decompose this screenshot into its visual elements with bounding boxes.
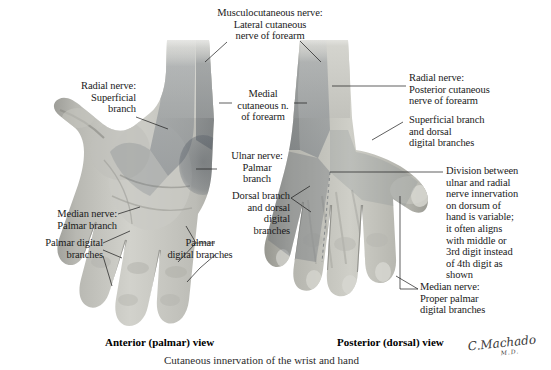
caption-anterior-palmar-view: Anterior (palmar) view	[105, 336, 214, 348]
label-palmar-digital-branches-left: Palmar digital branches	[3, 237, 103, 260]
label-superficial-branch-and-dorsal-digital-branches: Superficial branch and dorsal digital br…	[409, 114, 549, 149]
label-radial-nerve-posterior-cutaneous: Radial nerve: Posterior cutaneous nerve …	[409, 72, 547, 107]
anatomy-figure: Musculocutaneous nerve: Lateral cutaneou…	[0, 0, 551, 370]
zone-medial-cutaneous	[196, 30, 214, 150]
label-median-nerve-palmar-branch: Median nerve: Palmar branch	[12, 208, 117, 231]
label-palmar-digital-branches-center: Palmar digital branches	[154, 237, 246, 260]
caption-posterior-dorsal-view: Posterior (dorsal) view	[337, 336, 444, 348]
label-radial-nerve-superficial-branch: Radial nerve: Superficial branch	[36, 80, 136, 115]
label-dorsal-branch-and-dorsal-digital-branches: Dorsal branch and dorsal digital branche…	[198, 190, 290, 236]
label-median-nerve-proper-palmar-digital-branches: Median nerve: Proper palmar digital bran…	[420, 281, 548, 316]
figure-caption: Cutaneous innervation of the wrist and h…	[164, 354, 359, 366]
label-ulnar-nerve-palmar-branch: Ulnar nerve: Palmar branch	[218, 150, 296, 185]
label-division-note: Division between ulnar and radial nerve …	[446, 165, 551, 281]
label-medial-cutaneous-nerve-of-forearm: Medial cutaneous n. of forearm	[218, 88, 308, 123]
label-musculocutaneous-nerve: Musculocutaneous nerve: Lateral cutaneou…	[196, 7, 344, 42]
